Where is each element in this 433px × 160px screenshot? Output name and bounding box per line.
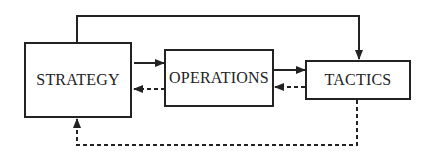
node-strategy: STRATEGY xyxy=(24,42,132,118)
node-operations: OPERATIONS xyxy=(164,49,274,107)
node-label: OPERATIONS xyxy=(169,69,269,87)
node-tactics: TACTICS xyxy=(305,60,411,100)
node-label: TACTICS xyxy=(325,71,392,89)
diagram-canvas: STRATEGY OPERATIONS TACTICS xyxy=(0,0,433,160)
node-label: STRATEGY xyxy=(36,71,119,89)
